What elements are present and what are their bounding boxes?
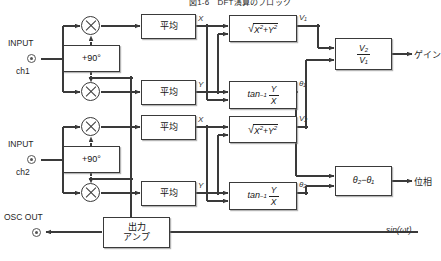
signal-label-y1: Y	[198, 80, 203, 89]
atan1-fn: tan	[247, 90, 260, 99]
magnitude-block-1: √ X2+Y2	[229, 15, 297, 42]
atan2-fn: tan	[247, 191, 260, 200]
output-label-gain: ゲイン	[414, 48, 441, 61]
signal-label-theta2: θ₂	[299, 180, 306, 189]
output-amplifier-block: 出力 アンプ	[103, 217, 170, 248]
mixer-ch1-upper	[81, 16, 100, 35]
signal-label-v2: V₂	[299, 114, 307, 123]
atan1-den: X	[269, 96, 279, 106]
input-ch1-connector-icon[interactable]	[27, 54, 36, 63]
input-ch1-sublabel: ch1	[16, 66, 30, 76]
input-ch1-label: INPUT	[8, 38, 34, 48]
signal-label-sin-omega-t: sin(ωt)	[386, 225, 412, 235]
figure-title: 図1-6 DFT演算のブロック	[150, 0, 330, 7]
osc-out-label: OSC OUT	[4, 212, 43, 222]
average-block-ch2-x: 平均	[141, 115, 196, 140]
atan2-exp: −1	[260, 193, 267, 199]
gain-denominator: V₁	[357, 55, 369, 65]
phase-shifter-ch1: +90°	[63, 45, 120, 72]
average-block-ch1-x: 平均	[141, 14, 196, 39]
arctangent-block-1: tan−1 Y X	[229, 81, 297, 109]
mag1-y-exp: 2	[274, 24, 277, 30]
mixer-ch2-upper	[81, 117, 100, 136]
mixer-ch1-lower	[81, 82, 100, 101]
mag2-y-exp: 2	[274, 125, 277, 131]
mixer-ch2-lower	[81, 183, 100, 202]
average-block-ch2-y: 平均	[141, 181, 196, 206]
phase-difference-block: θ₂−θ₁	[335, 166, 392, 196]
average-block-ch1-y: 平均	[141, 80, 196, 105]
output-label-phase: 位相	[414, 175, 432, 188]
osc-out-connector-icon[interactable]	[32, 228, 41, 237]
atan1-exp: −1	[260, 92, 267, 98]
signal-label-x1: X	[198, 14, 203, 23]
input-ch2-connector-icon[interactable]	[27, 155, 36, 164]
arctangent-block-2: tan−1 Y X	[229, 182, 297, 210]
gain-numerator: V₂	[357, 44, 370, 55]
atan2-den: X	[269, 197, 279, 207]
atan1-num: Y	[269, 85, 279, 96]
input-ch2-sublabel: ch2	[16, 167, 30, 177]
signal-label-theta1: θ₁	[299, 79, 306, 88]
gain-divider-block: V₂ V₁	[335, 38, 392, 70]
magnitude-block-2: √ X2+Y2	[229, 116, 297, 143]
input-ch2-label: INPUT	[8, 139, 34, 149]
output-amp-line2: アンプ	[123, 233, 150, 242]
atan2-num: Y	[269, 186, 279, 197]
signal-label-v1: V₁	[299, 13, 307, 22]
phase-shifter-ch2: +90°	[63, 146, 120, 173]
signal-label-x2: X	[198, 115, 203, 124]
signal-label-y2: Y	[198, 181, 203, 190]
